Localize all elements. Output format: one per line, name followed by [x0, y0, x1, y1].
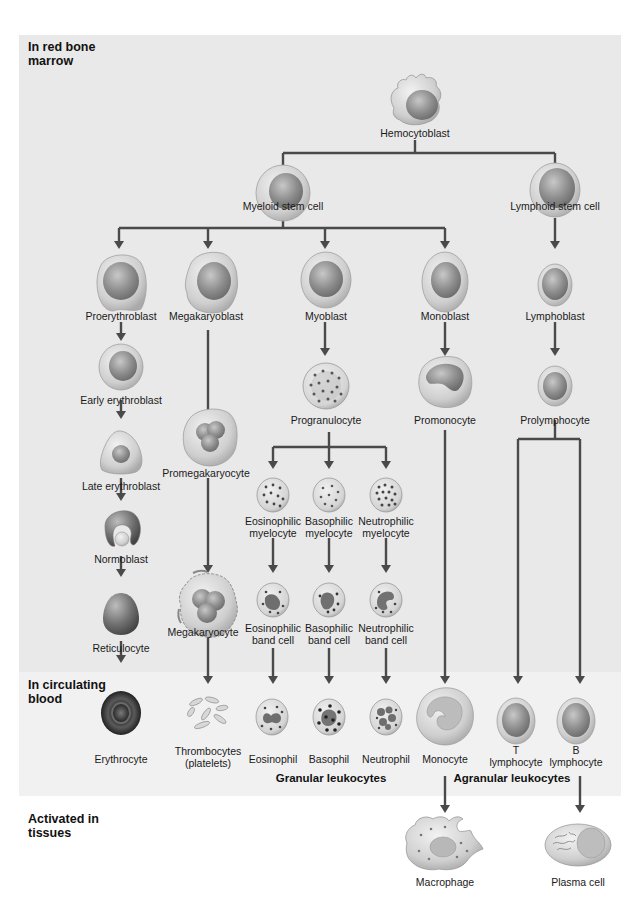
label-line: Basophilic: [305, 515, 353, 527]
label-reticulocyte: Reticulocyte: [92, 642, 149, 654]
label-basophilic-myelocyte: Basophilic myelocyte: [305, 515, 353, 539]
label-line: myelocyte: [358, 527, 413, 539]
label-thrombocytes: Thrombocytes (platelets): [175, 745, 242, 769]
label-hemocytoblast: Hemocytoblast: [380, 127, 449, 139]
label-line: (platelets): [175, 757, 242, 769]
label-late-erythroblast: Late erythroblast: [82, 480, 160, 492]
label-plasma-cell: Plasma cell: [551, 876, 605, 888]
label-line: Eosinophilic: [245, 515, 301, 527]
basophil-cell-icon: [312, 698, 346, 736]
prolymphocyte-cell-icon: [536, 364, 574, 408]
zone-label-blood: In circulating blood: [28, 678, 106, 706]
t-lymphocyte-cell-icon: [495, 696, 537, 746]
label-myeloid-stem-cell: Myeloid stem cell: [243, 200, 324, 212]
neutrophil-cell-icon: [369, 698, 403, 736]
label-line: Basophilic: [305, 622, 353, 634]
label-line: myelocyte: [245, 527, 301, 539]
zone-label-line: blood: [28, 692, 106, 706]
neutrophilic-band-cell-icon: [369, 582, 403, 618]
thrombocytes-platelets-icon: [182, 692, 232, 732]
hemocytoblast-cell-icon: [384, 68, 448, 128]
label-basophil: Basophil: [309, 753, 349, 765]
label-line: Neutrophilic: [358, 622, 413, 634]
early-erythroblast-cell-icon: [97, 342, 145, 392]
erythrocyte-cell-icon: [100, 690, 142, 736]
label-erythrocyte: Erythrocyte: [94, 753, 147, 765]
basophilic-band-cell-icon: [312, 582, 346, 618]
label-line: lymphocyte: [549, 756, 602, 768]
macrophage-cell-icon: [401, 813, 487, 873]
eosinophil-cell-icon: [255, 698, 289, 736]
zone-activated-tissues: [19, 796, 621, 868]
proerythroblast-cell-icon: [93, 251, 149, 315]
monocyte-cell-icon: [413, 683, 477, 749]
label-monoblast: Monoblast: [421, 310, 469, 322]
neutrophilic-myelocyte-cell-icon: [369, 477, 403, 513]
zone-label-line: tissues: [28, 826, 99, 840]
label-neutrophilic-band-cell: Neutrophilic band cell: [358, 622, 413, 646]
label-progranulocyte: Progranulocyte: [291, 414, 362, 426]
progranulocyte-cell-icon: [301, 361, 351, 411]
normoblast-cell-icon: [99, 508, 143, 552]
label-promonocyte: Promonocyte: [414, 414, 476, 426]
label-line: band cell: [305, 634, 353, 646]
promegakaryocyte-cell-icon: [180, 406, 240, 468]
label-megakaryocyte: Megakaryocyte: [167, 626, 238, 638]
zone-label-line: In circulating: [28, 678, 106, 692]
group-label-agranular-leukocytes: Agranular leukocytes: [454, 772, 571, 784]
lymphoblast-cell-icon: [536, 262, 574, 308]
label-megakaryoblast: Megakaryoblast: [169, 310, 243, 322]
late-erythroblast-cell-icon: [96, 428, 146, 476]
label-myoblast: Myoblast: [305, 310, 347, 322]
plasma-cell-icon: [543, 822, 613, 868]
label-neutrophilic-myelocyte: Neutrophilic myelocyte: [358, 515, 413, 539]
label-eosinophilic-band-cell: Eosinophilic band cell: [245, 622, 301, 646]
monoblast-cell-icon: [420, 250, 470, 314]
zone-label-marrow: In red bone marrow: [28, 40, 95, 68]
label-line: B: [549, 744, 602, 756]
reticulocyte-cell-icon: [101, 591, 141, 637]
label-line: Neutrophilic: [358, 515, 413, 527]
label-t-lymphocyte: T lymphocyte: [489, 744, 542, 768]
label-eosinophil: Eosinophil: [249, 753, 297, 765]
label-proerythroblast: Proerythroblast: [85, 310, 156, 322]
label-line: band cell: [245, 634, 301, 646]
myoblast-cell-icon: [299, 250, 353, 310]
label-prolymphocyte: Prolymphocyte: [520, 414, 589, 426]
label-monocyte: Monocyte: [422, 753, 468, 765]
label-macrophage: Macrophage: [416, 876, 474, 888]
group-label-granular-leukocytes: Granular leukocytes: [276, 772, 387, 784]
label-line: Thrombocytes: [175, 745, 242, 757]
label-line: lymphocyte: [489, 756, 542, 768]
label-line: Eosinophilic: [245, 622, 301, 634]
label-line: T: [489, 744, 542, 756]
zone-label-line: In red bone: [28, 40, 95, 54]
promonocyte-cell-icon: [414, 352, 476, 410]
zone-label-tissues: Activated in tissues: [28, 812, 99, 840]
eosinophilic-myelocyte-cell-icon: [256, 477, 290, 513]
label-promegakaryocyte: Promegakaryocyte: [162, 467, 250, 479]
basophilic-myelocyte-cell-icon: [312, 477, 346, 513]
megakaryoblast-cell-icon: [181, 249, 241, 317]
label-lymphoblast: Lymphoblast: [525, 310, 584, 322]
eosinophilic-band-cell-icon: [256, 582, 290, 618]
label-line: myelocyte: [305, 527, 353, 539]
zone-label-line: Activated in: [28, 812, 99, 826]
label-eosinophilic-myelocyte: Eosinophilic myelocyte: [245, 515, 301, 539]
label-line: band cell: [358, 634, 413, 646]
myeloid-stem-cell-icon: [253, 163, 313, 223]
label-early-erythroblast: Early erythroblast: [80, 394, 162, 406]
label-neutrophil: Neutrophil: [362, 753, 410, 765]
b-lymphocyte-cell-icon: [555, 696, 597, 746]
zone-label-line: marrow: [28, 54, 95, 68]
label-normoblast: Normoblast: [94, 553, 148, 565]
label-b-lymphocyte: B lymphocyte: [549, 744, 602, 768]
label-basophilic-band-cell: Basophilic band cell: [305, 622, 353, 646]
label-lymphoid-stem-cell: Lymphoid stem cell: [510, 200, 599, 212]
